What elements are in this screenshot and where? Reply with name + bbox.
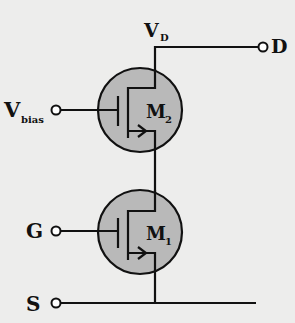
m1-subscript: 1	[165, 236, 172, 247]
transistor-m2: M 2	[98, 68, 182, 195]
vbias-subscript: bias	[21, 114, 44, 125]
m1-label: M	[146, 223, 166, 244]
drain-terminal-label: D	[271, 35, 287, 57]
vd-subscript: D	[160, 32, 169, 43]
vbias-label: V	[3, 97, 21, 122]
vd-label: V	[143, 19, 160, 41]
gate-terminal[interactable]	[52, 227, 61, 236]
m2-label: M	[146, 101, 166, 122]
drain-terminal[interactable]	[259, 43, 268, 52]
gate-label: G	[26, 219, 43, 243]
cascode-diagram: D V D M 2 V bias M 1 G S	[0, 0, 295, 323]
source-terminal[interactable]	[52, 299, 61, 308]
m2-subscript: 2	[165, 114, 172, 125]
transistor-m1: M 1	[98, 190, 182, 303]
vbias-terminal[interactable]	[52, 106, 61, 115]
source-label: S	[26, 292, 40, 316]
